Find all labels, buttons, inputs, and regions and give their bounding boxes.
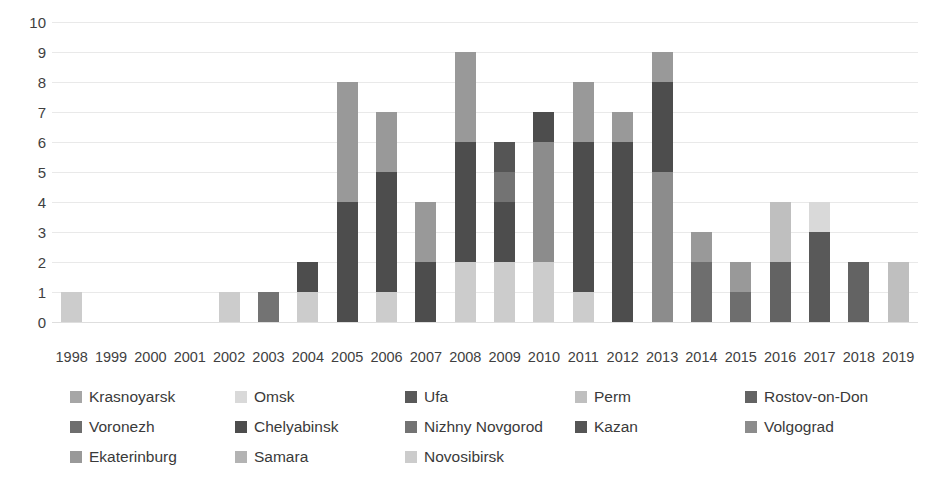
- bar-slot: [642, 22, 681, 322]
- legend-swatch-icon: [235, 421, 247, 433]
- bar-segment[interactable]: [494, 142, 515, 172]
- bar-stack[interactable]: [888, 262, 909, 322]
- bar-segment[interactable]: [809, 232, 830, 322]
- bar-segment[interactable]: [652, 172, 673, 322]
- legend-item[interactable]: Nizhny Novgorod: [405, 419, 575, 435]
- bar-segment[interactable]: [691, 262, 712, 322]
- legend-item[interactable]: Volgograd: [745, 419, 920, 435]
- bar-slot: [406, 22, 445, 322]
- bar-segment[interactable]: [61, 292, 82, 322]
- legend-label: Kazan: [594, 419, 638, 435]
- x-axis: 1998199920002001200220032004200520062007…: [52, 344, 918, 370]
- bar-segment[interactable]: [455, 142, 476, 262]
- bar-segment[interactable]: [455, 262, 476, 322]
- bar-segment[interactable]: [533, 142, 554, 262]
- legend-label: Chelyabinsk: [254, 419, 338, 435]
- bar-slot: [760, 22, 799, 322]
- bar-segment[interactable]: [888, 262, 909, 322]
- legend-swatch-icon: [745, 421, 757, 433]
- legend-item[interactable]: Ufa: [405, 389, 575, 405]
- bar-stack[interactable]: [533, 112, 554, 322]
- legend-item[interactable]: Krasnoyarsk: [70, 389, 235, 405]
- bar-slot: [170, 22, 209, 322]
- bar-stack[interactable]: [770, 202, 791, 322]
- bar-segment[interactable]: [573, 142, 594, 292]
- legend-item[interactable]: Rostov-on-Don: [745, 389, 920, 405]
- legend-label: Perm: [594, 389, 631, 405]
- bar-segment[interactable]: [415, 262, 436, 322]
- bar-segment[interactable]: [415, 202, 436, 262]
- bar-stack[interactable]: [61, 292, 82, 322]
- y-axis-tick: 9: [38, 45, 46, 60]
- bar-segment[interactable]: [376, 292, 397, 322]
- x-axis-tick: 2000: [131, 344, 170, 370]
- bar-stack[interactable]: [730, 262, 751, 322]
- bar-stack[interactable]: [337, 82, 358, 322]
- chart-legend: KrasnoyarskOmskUfaPermRostov-on-DonVoron…: [70, 382, 920, 472]
- bar-stack[interactable]: [691, 232, 712, 322]
- bar-segment[interactable]: [848, 262, 869, 322]
- bar-segment[interactable]: [494, 262, 515, 322]
- legend-item[interactable]: Novosibirsk: [405, 449, 575, 465]
- bar-segment[interactable]: [533, 112, 554, 142]
- bar-segment[interactable]: [770, 262, 791, 322]
- bar-stack[interactable]: [612, 112, 633, 322]
- x-axis-tick: 2015: [721, 344, 760, 370]
- bar-stack[interactable]: [415, 202, 436, 322]
- bar-segment[interactable]: [337, 82, 358, 202]
- bar-stack[interactable]: [455, 52, 476, 322]
- bar-segment[interactable]: [376, 112, 397, 172]
- bar-segment[interactable]: [573, 292, 594, 322]
- bar-stack[interactable]: [809, 202, 830, 322]
- bar-segment[interactable]: [730, 262, 751, 292]
- legend-item[interactable]: Chelyabinsk: [235, 419, 405, 435]
- x-axis-tick: 2017: [800, 344, 839, 370]
- bar-segment[interactable]: [809, 202, 830, 232]
- bar-segment[interactable]: [770, 202, 791, 262]
- y-axis-tick: 0: [38, 315, 46, 330]
- x-axis-tick: 2004: [288, 344, 327, 370]
- bar-segment[interactable]: [652, 82, 673, 172]
- x-axis-tick: 2014: [682, 344, 721, 370]
- legend-item[interactable]: Omsk: [235, 389, 405, 405]
- bars-layer: [52, 22, 918, 322]
- bar-segment[interactable]: [494, 172, 515, 202]
- legend-item[interactable]: Perm: [575, 389, 745, 405]
- bar-stack[interactable]: [573, 82, 594, 322]
- bar-segment[interactable]: [691, 232, 712, 262]
- bar-segment[interactable]: [337, 202, 358, 322]
- legend-item[interactable]: Samara: [235, 449, 405, 465]
- x-axis-tick: 2002: [209, 344, 248, 370]
- y-axis-tick: 2: [38, 255, 46, 270]
- y-axis-tick: 3: [38, 225, 46, 240]
- bar-slot: [682, 22, 721, 322]
- bar-stack[interactable]: [219, 292, 240, 322]
- bar-stack[interactable]: [258, 292, 279, 322]
- bar-slot: [800, 22, 839, 322]
- bar-stack[interactable]: [652, 52, 673, 322]
- legend-item[interactable]: Ekaterinburg: [70, 449, 235, 465]
- legend-swatch-icon: [575, 391, 587, 403]
- bar-slot: [131, 22, 170, 322]
- bar-segment[interactable]: [297, 292, 318, 322]
- bar-segment[interactable]: [376, 172, 397, 292]
- bar-segment[interactable]: [258, 292, 279, 322]
- bar-segment[interactable]: [219, 292, 240, 322]
- bar-slot: [249, 22, 288, 322]
- legend-label: Novosibirsk: [424, 449, 504, 465]
- bar-segment[interactable]: [573, 82, 594, 142]
- bar-segment[interactable]: [612, 112, 633, 142]
- bar-segment[interactable]: [730, 292, 751, 322]
- bar-stack[interactable]: [848, 262, 869, 322]
- bar-stack[interactable]: [376, 112, 397, 322]
- bar-segment[interactable]: [612, 142, 633, 322]
- bar-segment[interactable]: [455, 52, 476, 142]
- bar-segment[interactable]: [533, 262, 554, 322]
- bar-segment[interactable]: [297, 262, 318, 292]
- legend-item[interactable]: Voronezh: [70, 419, 235, 435]
- bar-stack[interactable]: [297, 262, 318, 322]
- bar-stack[interactable]: [494, 142, 515, 322]
- legend-item[interactable]: Kazan: [575, 419, 745, 435]
- bar-segment[interactable]: [652, 52, 673, 82]
- bar-segment[interactable]: [494, 202, 515, 262]
